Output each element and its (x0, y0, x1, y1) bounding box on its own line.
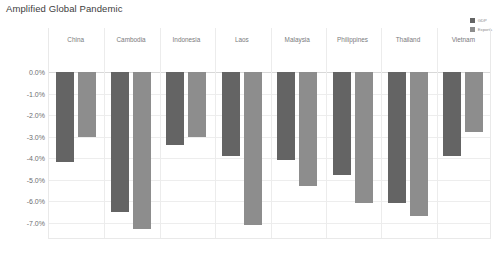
category-separator (326, 28, 327, 238)
x-axis-category-label: Philippines (337, 36, 368, 43)
plot-area (48, 28, 491, 239)
legend-item-gdp[interactable]: GDP (470, 17, 492, 24)
y-axis-tick-label: -1.0% (27, 90, 45, 97)
y-axis-tick-label: -3.0% (27, 133, 45, 140)
y-axis-tick-label: -7.0% (27, 219, 45, 226)
x-axis-category-label: Cambodia (116, 36, 145, 43)
category-separator (104, 28, 105, 238)
category-separator (215, 28, 216, 238)
legend-label-gdp: GDP (478, 18, 487, 23)
x-axis-category-label: Indonesia (173, 36, 201, 43)
category-separator (271, 28, 272, 238)
x-axis-category-label: Thailand (396, 36, 421, 43)
x-axis-category-label: China (67, 36, 84, 43)
x-axis-category-label: Vietnam (452, 36, 475, 43)
x-axis-category-label: Laos (235, 36, 249, 43)
legend-swatch-gdp (470, 18, 475, 23)
category-separator (160, 28, 161, 238)
y-axis-tick-label: 0.0% (29, 69, 45, 76)
y-axis-tick-label: -5.0% (27, 176, 45, 183)
x-axis-category-label: Malaysia (285, 36, 310, 43)
category-separator (437, 28, 438, 238)
category-separator (381, 28, 382, 238)
y-axis-tick-label: -2.0% (27, 112, 45, 119)
y-axis-tick-label: -6.0% (27, 198, 45, 205)
page-title: Amplified Global Pandemic (6, 3, 123, 14)
y-axis-tick-label: -4.0% (27, 155, 45, 162)
